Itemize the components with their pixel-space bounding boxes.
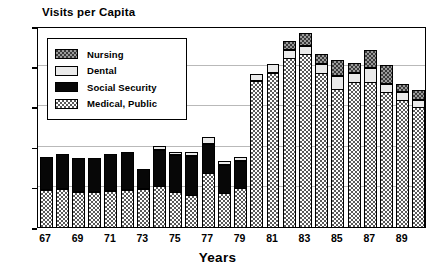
- bar-segment: [267, 73, 280, 228]
- x-axis-tick-label: 89: [389, 232, 415, 244]
- x-axis-tick-label: 71: [97, 232, 123, 244]
- bar-segment: [380, 65, 393, 84]
- bar-segment: [234, 188, 247, 228]
- bar: [40, 157, 53, 227]
- bar-segment: [56, 154, 69, 189]
- bar-segment: [169, 155, 182, 193]
- bar: [169, 152, 182, 227]
- bar-segment: [283, 58, 296, 228]
- bar-segment: [396, 84, 409, 91]
- bar-segment: [348, 82, 361, 228]
- bar: [267, 64, 280, 227]
- bar-segment: [169, 192, 182, 228]
- bar-segment: [88, 158, 101, 192]
- chart-legend: NursingDentalSocial SecurityMedical, Pub…: [47, 38, 187, 120]
- bar-segment: [364, 68, 377, 83]
- bar-segment: [331, 76, 344, 90]
- bar-segment: [267, 64, 280, 73]
- bar: [121, 152, 134, 227]
- bar-segment: [299, 54, 312, 228]
- bar: [299, 33, 312, 227]
- bar: [104, 154, 117, 227]
- x-axis-tick-label: 77: [194, 232, 220, 244]
- bar-segment: [364, 50, 377, 68]
- bar: [396, 84, 409, 227]
- bar-segment: [331, 60, 344, 76]
- x-axis-tick-label: 67: [32, 232, 58, 244]
- bar-segment: [250, 81, 263, 228]
- x-axis-tick-label: 85: [324, 232, 350, 244]
- bar-segment: [234, 161, 247, 188]
- bar-segment: [40, 157, 53, 190]
- x-axis-tick-label: 79: [227, 232, 253, 244]
- y-axis-tick: [32, 107, 37, 109]
- bar: [153, 146, 166, 227]
- bar-segment: [121, 190, 134, 228]
- bar: [380, 65, 393, 227]
- legend-swatch: [55, 49, 78, 59]
- y-axis-tick: [32, 67, 37, 69]
- bar: [412, 90, 425, 227]
- x-axis-title: Years: [0, 250, 435, 265]
- legend-item: Nursing: [55, 47, 178, 62]
- bar-segment: [315, 73, 328, 228]
- bar: [72, 158, 85, 227]
- legend-swatch: [55, 99, 78, 109]
- bar-segment: [56, 189, 69, 228]
- bar: [218, 161, 231, 227]
- bar-segment: [348, 63, 361, 73]
- bar-segment: [185, 156, 198, 196]
- bar-segment: [315, 54, 328, 64]
- legend-item: Social Security: [55, 80, 178, 95]
- bar-segment: [218, 193, 231, 228]
- x-axis-tick-label: 73: [129, 232, 155, 244]
- bar-segment: [104, 154, 117, 191]
- bar-segment: [72, 158, 85, 192]
- x-axis-tick-label: 81: [259, 232, 285, 244]
- bar: [56, 154, 69, 227]
- bar-segment: [88, 192, 101, 228]
- legend-swatch: [55, 82, 78, 92]
- bar-segment: [121, 152, 134, 190]
- legend-label: Nursing: [87, 49, 124, 60]
- bar-segment: [283, 41, 296, 50]
- bar-segment: [412, 107, 425, 228]
- bar-segment: [218, 165, 231, 194]
- y-axis-tick: [32, 188, 37, 190]
- legend-label: Dental: [87, 65, 117, 76]
- legend-label: Medical, Public: [87, 98, 157, 109]
- bar: [250, 74, 263, 227]
- bar-segment: [202, 173, 215, 228]
- bar-segment: [299, 33, 312, 46]
- bar: [185, 152, 198, 227]
- bar-segment: [185, 195, 198, 228]
- bar-segment: [104, 191, 117, 228]
- bar-segment: [137, 189, 150, 228]
- legend-item: Dental: [55, 63, 178, 78]
- y-axis-tick: [32, 228, 37, 230]
- bar: [331, 60, 344, 227]
- bar-segment: [153, 186, 166, 228]
- bar: [88, 158, 101, 227]
- y-axis-tick: [32, 27, 37, 29]
- bar: [364, 50, 377, 227]
- bar-segment: [396, 100, 409, 228]
- y-axis-tick: [32, 148, 37, 150]
- bar-segment: [72, 192, 85, 228]
- bar: [348, 63, 361, 227]
- bar-segment: [137, 169, 150, 188]
- chart-title: Visits per Capita: [42, 6, 135, 18]
- bar-segment: [331, 89, 344, 228]
- legend-item: Medical, Public: [55, 96, 178, 111]
- bar-segment: [380, 92, 393, 228]
- bar-segment: [412, 90, 425, 100]
- bar: [283, 41, 296, 227]
- chart-container: Visits per Capita 00.511.522.5 676971737…: [0, 0, 435, 279]
- x-axis-tick-label: 75: [162, 232, 188, 244]
- bar: [137, 169, 150, 227]
- x-axis-tick-label: 83: [291, 232, 317, 244]
- bar: [202, 137, 215, 227]
- bar-segment: [40, 190, 53, 228]
- bar-segment: [364, 82, 377, 228]
- x-axis-tick-label: 69: [65, 232, 91, 244]
